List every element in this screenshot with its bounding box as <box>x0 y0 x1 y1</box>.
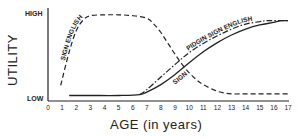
x-tick-labels: 01234567891011121314151617 <box>46 104 292 111</box>
x-tick-label: 1 <box>60 104 64 111</box>
x-tick-label: 12 <box>214 104 222 111</box>
x-tick-label: 10 <box>186 104 194 111</box>
y-axis-title: UTILITY <box>2 30 22 90</box>
x-tick-label: 14 <box>242 104 250 111</box>
x-tick-label: 8 <box>159 104 163 111</box>
x-tick-label: 15 <box>256 104 264 111</box>
pidgin-sign-english-label: PIDGIN SIGN ENGLISH <box>185 15 253 52</box>
curve-labels: SIGN ENGLISHPIDGIN SIGN ENGLISHSIGN <box>59 13 253 85</box>
x-tick-label: 13 <box>228 104 236 111</box>
x-tick-label: 11 <box>200 104 207 111</box>
x-tick-label: 9 <box>173 104 177 111</box>
x-tick-label: 7 <box>145 104 149 111</box>
x-tick-label: 4 <box>103 104 107 111</box>
x-tick-label: 6 <box>131 104 135 111</box>
x-tick-label: 3 <box>89 104 93 111</box>
y-low-label: LOW <box>27 95 43 102</box>
x-tick-label: 17 <box>284 104 292 111</box>
x-axis-title: AGE (in years) <box>110 117 202 132</box>
x-tick-label: 0 <box>46 104 50 111</box>
sign-curve <box>69 21 288 96</box>
y-high-label: HIGH <box>25 10 43 17</box>
sign-english-label: SIGN ENGLISH <box>59 13 84 61</box>
axes <box>48 8 289 101</box>
x-tick-label: 5 <box>117 104 121 111</box>
x-tick-label: 16 <box>270 104 278 111</box>
x-tick-label: 2 <box>74 104 78 111</box>
sign-label: SIGN <box>171 70 188 86</box>
